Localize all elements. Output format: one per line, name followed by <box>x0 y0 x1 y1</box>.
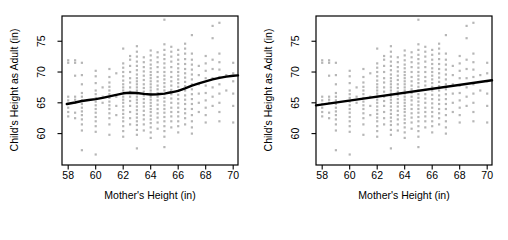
data-point <box>438 48 440 50</box>
data-point <box>67 62 69 64</box>
data-point <box>163 130 165 132</box>
data-point <box>417 130 419 132</box>
data-point <box>404 67 406 69</box>
data-point <box>163 54 165 56</box>
data-point <box>191 93 193 95</box>
data-point <box>390 134 392 136</box>
data-point <box>411 51 413 53</box>
data-point <box>143 105 145 107</box>
data-point <box>157 71 159 73</box>
data-point <box>328 117 330 119</box>
data-point <box>417 101 419 103</box>
data-point <box>136 51 138 53</box>
data-point <box>191 103 193 105</box>
data-point <box>184 94 186 96</box>
data-point <box>404 89 406 91</box>
data-point <box>431 59 433 61</box>
data-point <box>170 85 172 87</box>
data-point <box>108 76 110 78</box>
data-point <box>383 100 385 102</box>
data-point <box>349 82 351 84</box>
data-point <box>108 89 110 91</box>
data-point <box>445 103 447 105</box>
data-point <box>424 80 426 82</box>
data-point <box>445 126 447 128</box>
data-point <box>438 58 440 60</box>
data-point <box>67 115 69 117</box>
data-point <box>335 107 337 109</box>
data-point <box>335 83 337 85</box>
data-point <box>431 115 433 117</box>
data-point <box>438 103 440 105</box>
data-point <box>397 79 399 81</box>
data-point <box>184 72 186 74</box>
y-tick-label: 70 <box>36 66 48 78</box>
data-point <box>177 75 179 77</box>
data-point <box>390 73 392 75</box>
data-point <box>136 120 138 122</box>
data-point <box>177 82 179 84</box>
data-point <box>466 96 468 98</box>
data-point <box>479 89 481 91</box>
data-point <box>404 131 406 133</box>
data-point <box>335 62 337 64</box>
data-point <box>321 111 323 113</box>
data-point <box>376 99 378 101</box>
data-point <box>95 153 97 155</box>
data-point <box>81 83 83 85</box>
data-point <box>143 70 145 72</box>
data-point <box>417 71 419 73</box>
data-point <box>74 62 76 64</box>
data-point <box>108 86 110 88</box>
data-point <box>404 96 406 98</box>
data-point <box>376 117 378 119</box>
data-point <box>417 54 419 56</box>
data-point <box>362 68 364 70</box>
data-point <box>198 74 200 76</box>
data-point <box>74 75 76 77</box>
data-point <box>81 110 83 112</box>
data-point <box>424 85 426 87</box>
data-point <box>438 99 440 101</box>
data-point <box>417 112 419 114</box>
data-point <box>95 82 97 84</box>
data-point <box>404 64 406 66</box>
data-point <box>150 122 152 124</box>
data-point <box>431 94 433 96</box>
data-point <box>232 121 234 123</box>
data-point <box>74 117 76 119</box>
data-point <box>466 105 468 107</box>
data-point <box>177 78 179 80</box>
data-point <box>376 75 378 77</box>
data-point <box>157 56 159 58</box>
data-point <box>191 59 193 61</box>
data-point <box>445 69 447 71</box>
data-point <box>129 77 131 79</box>
data-point <box>157 96 159 98</box>
data-point <box>335 123 337 125</box>
data-point <box>390 69 392 71</box>
data-point <box>349 104 351 106</box>
data-point <box>411 96 413 98</box>
data-point <box>163 86 165 88</box>
data-point <box>404 99 406 101</box>
data-point <box>205 62 207 64</box>
data-point <box>163 136 165 138</box>
data-point <box>81 92 83 94</box>
data-point <box>205 107 207 109</box>
x-tick-label: 68 <box>454 169 466 181</box>
data-point <box>417 49 419 51</box>
data-point <box>184 108 186 110</box>
data-point <box>122 105 124 107</box>
data-point <box>376 125 378 127</box>
data-point <box>417 125 419 127</box>
data-point <box>362 134 364 136</box>
data-point <box>431 54 433 56</box>
data-point <box>184 68 186 70</box>
data-point <box>122 125 124 127</box>
data-point <box>163 75 165 77</box>
data-point <box>472 93 474 95</box>
data-point <box>212 86 214 88</box>
data-point <box>411 61 413 63</box>
data-point <box>376 109 378 111</box>
